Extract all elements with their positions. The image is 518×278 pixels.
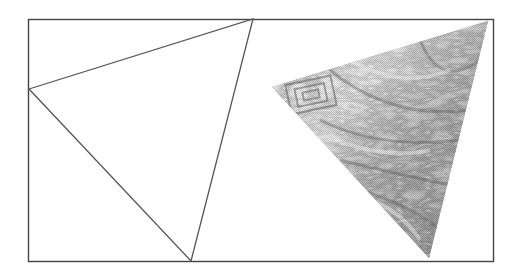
figure	[0, 0, 518, 278]
textured-triangle	[265, 15, 495, 265]
wireframe-triangle	[29, 19, 253, 261]
diagram-canvas	[0, 0, 518, 278]
